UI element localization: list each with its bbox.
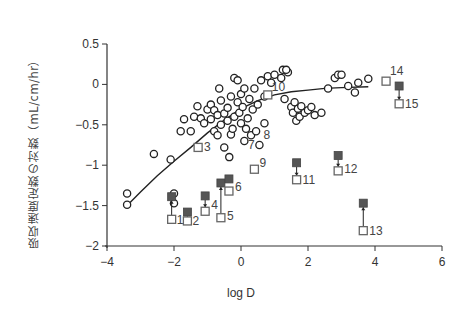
open-square-marker xyxy=(334,167,342,175)
circle-marker xyxy=(150,150,157,157)
point-label-6: 6 xyxy=(235,180,242,194)
circle-marker xyxy=(177,128,184,135)
circle-marker xyxy=(258,77,265,84)
circle-marker xyxy=(308,103,315,110)
circle-marker xyxy=(251,85,258,92)
point-label-8: 8 xyxy=(263,128,270,142)
open-square-marker xyxy=(250,165,258,173)
point-label-10: 10 xyxy=(272,80,286,94)
circle-marker xyxy=(355,79,362,86)
circle-marker xyxy=(187,128,194,135)
point-label-12: 12 xyxy=(344,162,358,176)
point-label-14: 14 xyxy=(390,64,404,78)
open-square-marker xyxy=(183,217,191,225)
y-tick-label: −2 xyxy=(85,239,99,253)
circle-marker xyxy=(224,104,231,111)
point-label-4: 4 xyxy=(211,198,218,212)
open-square-marker xyxy=(264,91,272,99)
open-square-marker xyxy=(395,100,403,108)
filled-square-marker xyxy=(293,159,301,167)
x-tick-label: −4 xyxy=(100,255,114,269)
circle-marker xyxy=(194,103,201,110)
point-label-9: 9 xyxy=(259,156,266,170)
circle-marker xyxy=(252,128,259,135)
point-label-15: 15 xyxy=(405,97,419,111)
circle-marker xyxy=(201,120,208,127)
point-label-7: 7 xyxy=(248,138,255,152)
point-label-5: 5 xyxy=(227,209,234,223)
circle-marker xyxy=(261,120,268,127)
x-tick-label: −2 xyxy=(167,255,181,269)
y-tick-label: −0.5 xyxy=(75,118,99,132)
open-square-marker xyxy=(194,143,202,151)
circle-marker xyxy=(242,125,249,132)
circle-marker xyxy=(124,201,131,208)
circle-marker xyxy=(345,82,352,89)
circle-marker xyxy=(214,132,221,139)
circle-marker xyxy=(180,116,187,123)
open-square-marker xyxy=(201,207,209,215)
point-label-1: 1 xyxy=(177,213,184,227)
y-tick-label: 0.5 xyxy=(82,37,99,51)
scatter-chart: −4−202460.50−0.5−1−1.5−2 123456789101112… xyxy=(0,0,473,327)
circle-marker xyxy=(224,117,231,124)
y-tick-label: −1.5 xyxy=(75,199,99,213)
circle-marker xyxy=(229,125,236,132)
x-tick-label: 2 xyxy=(305,255,312,269)
circle-marker xyxy=(217,97,224,104)
x-tick-label: 0 xyxy=(238,255,245,269)
open-square-marker xyxy=(217,214,225,222)
x-tick-label: 4 xyxy=(372,255,379,269)
circle-marker xyxy=(217,121,224,128)
y-tick-label: −1 xyxy=(85,158,99,172)
circle-marker xyxy=(239,103,246,110)
filled-square-marker xyxy=(395,82,403,90)
filled-square-marker xyxy=(217,179,225,187)
circle-marker xyxy=(254,101,261,108)
open-square-marker xyxy=(359,227,367,235)
filled-square-marker xyxy=(334,152,342,160)
circle-marker xyxy=(281,95,288,102)
circle-marker xyxy=(207,116,214,123)
circle-marker xyxy=(167,156,174,163)
x-tick-label: 6 xyxy=(439,255,446,269)
circle-marker xyxy=(221,144,228,151)
filled-square-marker xyxy=(359,199,367,207)
filled-square-marker xyxy=(183,208,191,216)
circle-marker xyxy=(227,93,234,100)
circle-marker xyxy=(244,115,251,122)
circle-marker xyxy=(283,66,290,73)
circle-marker xyxy=(246,95,253,102)
circle-marker xyxy=(234,77,241,84)
circle-marker xyxy=(214,112,221,119)
point-label-11: 11 xyxy=(303,173,316,187)
filled-square-marker xyxy=(201,192,209,200)
point-labels: 123456789101112131415 xyxy=(177,64,419,237)
point-label-2: 2 xyxy=(192,214,199,228)
circle-marker xyxy=(241,137,248,144)
circle-marker xyxy=(318,109,325,116)
filled-square-marker xyxy=(225,175,233,183)
open-square-marker xyxy=(293,176,301,184)
circle-marker xyxy=(216,85,223,92)
open-square-marker xyxy=(382,77,390,85)
point-label-3: 3 xyxy=(204,140,211,154)
arrow-head xyxy=(219,187,223,190)
circle-marker xyxy=(351,89,358,96)
circle-marker xyxy=(226,154,233,161)
y-tick-label: 0 xyxy=(92,77,99,91)
arrow-head xyxy=(361,207,365,210)
circle-marker xyxy=(241,85,248,92)
x-axis-title: log D xyxy=(227,286,255,300)
circle-marker xyxy=(256,141,263,148)
circle-marker xyxy=(191,113,198,120)
circle-marker xyxy=(365,75,372,82)
point-label-13: 13 xyxy=(369,224,383,238)
filled-square-marker xyxy=(168,193,176,201)
open-square-marker xyxy=(168,215,176,223)
open-square-marker xyxy=(225,187,233,195)
circle-marker xyxy=(325,85,332,92)
circle-marker xyxy=(338,71,345,78)
circle-marker xyxy=(124,190,131,197)
